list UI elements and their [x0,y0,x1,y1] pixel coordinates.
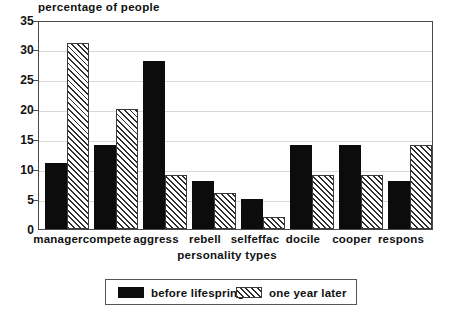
y-tick-label-15: 15 [0,134,34,146]
bar-manager-after [67,43,89,229]
plot-area [38,21,433,230]
bar-aggress-after [165,175,187,229]
bar-docile-before [290,145,312,229]
bar-compete-after [116,109,138,229]
bar-cooper-before [339,145,361,229]
bar-cooper-after [361,175,383,229]
legend-entry-one-year-later: one year later [236,285,347,300]
x-label-respons: respons [371,233,431,245]
gridline-30 [39,51,432,52]
bar-respons-after [410,145,432,229]
gridline-15 [39,141,432,142]
bar-docile-after [312,175,334,229]
bar-rebell-after [214,193,236,229]
bar-manager-before [45,163,67,229]
bar-compete-before [94,145,116,229]
y-tick-label-20: 20 [0,104,34,116]
legend: before lifespring one year later [105,279,357,305]
gridline-25 [39,81,432,82]
bar-aggress-before [143,61,165,229]
y-tick-label-30: 30 [0,44,34,56]
legend-swatch-solid-icon [118,287,144,298]
x-axis-title: personality types [0,249,454,261]
legend-entry-before-lifespring: before lifespring [118,285,245,300]
y-tick-label-25: 25 [0,74,34,86]
legend-swatch-hatch-icon [236,287,262,298]
y-axis-title: percentage of people [38,1,160,13]
legend-label-before-lifespring: before lifespring [151,287,245,299]
gridline-20 [39,111,432,112]
bar-respons-before [388,181,410,229]
y-tick-label-35: 35 [0,15,34,27]
bar-selfeffac-after [263,217,285,229]
bar-chart: percentage of people 35 30 25 20 15 10 5… [0,0,454,328]
bar-rebell-before [192,181,214,229]
legend-label-one-year-later: one year later [269,287,347,299]
y-tick-label-10: 10 [0,164,34,176]
bar-selfeffac-before [241,199,263,229]
y-tick-label-5: 5 [0,194,34,206]
